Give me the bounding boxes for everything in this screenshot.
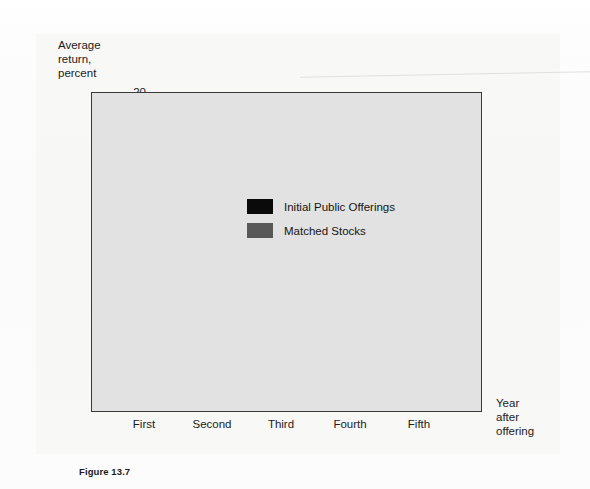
figure-container: Average return, percent 20 15 10 5 Initi… xyxy=(0,0,590,489)
plot-area: Initial Public Offerings Matched Stocks xyxy=(91,92,482,412)
legend-swatch-icon-ipo xyxy=(247,199,273,214)
y-axis-title-line-2: return, xyxy=(58,52,146,66)
x-tick-label-first: First xyxy=(133,418,155,430)
y-axis-title: Average return, percent xyxy=(58,38,146,80)
x-axis-title-line-3: offering xyxy=(496,424,580,438)
legend-label-ipo: Initial Public Offerings xyxy=(284,201,395,213)
x-axis-title-line-1: Year xyxy=(496,396,580,410)
legend-entry-matched: Matched Stocks xyxy=(247,223,395,238)
x-tick-label-second: Second xyxy=(192,418,231,430)
chart-legend: Initial Public Offerings Matched Stocks xyxy=(247,199,395,247)
x-tick-label-fifth: Fifth xyxy=(408,418,430,430)
x-tick-label-third: Third xyxy=(268,418,294,430)
x-axis-title: Year after offering xyxy=(496,396,580,438)
legend-label-matched: Matched Stocks xyxy=(284,225,366,237)
bars-layer xyxy=(92,93,481,411)
legend-swatch-icon-matched xyxy=(247,223,273,238)
x-axis-title-line-2: after xyxy=(496,410,580,424)
figure-caption: Figure 13.7 xyxy=(79,466,130,477)
legend-entry-ipo: Initial Public Offerings xyxy=(247,199,395,214)
y-axis-title-line-3: percent xyxy=(58,66,146,80)
x-tick-label-fourth: Fourth xyxy=(333,418,366,430)
y-axis-title-line-1: Average xyxy=(58,38,146,52)
